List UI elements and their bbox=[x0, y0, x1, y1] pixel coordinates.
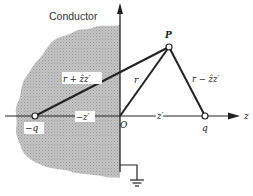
ground-wire bbox=[120, 165, 137, 180]
neg-distance-label: −z′ bbox=[76, 112, 90, 122]
conductor-label: Conductor bbox=[49, 10, 98, 22]
z-axis-arrow-icon bbox=[228, 113, 240, 120]
distance-label: z′ bbox=[156, 111, 163, 121]
negative-charge-marker bbox=[32, 113, 38, 119]
point-p-label: P bbox=[164, 30, 172, 40]
ground-icon bbox=[130, 180, 144, 186]
vector-r-plus-label: r + ẑz′ bbox=[63, 74, 91, 84]
vertical-axis-arrow-icon bbox=[117, 3, 123, 14]
positive-charge-marker bbox=[202, 113, 208, 119]
origin-label: O bbox=[120, 120, 128, 130]
vector-r-label: r bbox=[134, 75, 139, 85]
positive-charge-label: q bbox=[202, 123, 208, 133]
z-axis-label: z bbox=[243, 111, 249, 121]
vector-r-line bbox=[120, 47, 169, 116]
point-p-marker bbox=[166, 44, 172, 50]
vector-r-minus-label: r − ẑz′ bbox=[192, 74, 220, 84]
image-charge-diagram: Conductor z r + ẑz′ −z′ −q P r r − ẑz′ O… bbox=[0, 0, 253, 196]
negative-charge-label: −q bbox=[25, 123, 39, 133]
conductor-region bbox=[16, 25, 120, 178]
